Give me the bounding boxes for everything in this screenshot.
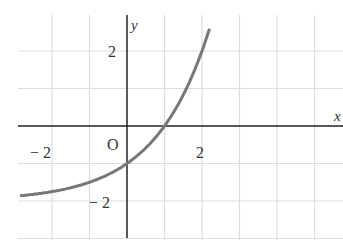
x-axis-label: x [333,108,341,124]
function-graph: y x O 2 − 2 − 2 2 [0,0,343,240]
origin-label: O [107,136,119,153]
x-tick-2: 2 [196,144,204,161]
y-axis-label: y [129,17,138,33]
grid-lines [18,15,343,240]
x-tick-neg2: − 2 [30,144,51,161]
y-tick-neg2: − 2 [89,194,110,211]
y-tick-2: 2 [108,43,116,60]
